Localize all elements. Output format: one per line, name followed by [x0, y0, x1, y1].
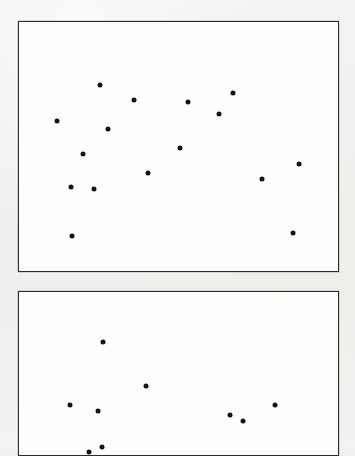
data-point: [70, 234, 75, 239]
data-point: [260, 177, 265, 182]
data-point: [106, 127, 111, 132]
data-point: [297, 162, 302, 167]
data-point: [186, 100, 191, 105]
data-point: [217, 112, 222, 117]
bottom-scatter-plot-area: [19, 292, 338, 455]
data-point: [96, 409, 101, 414]
data-point: [231, 91, 236, 96]
data-point: [291, 231, 296, 236]
data-point: [273, 403, 278, 408]
data-point: [55, 119, 60, 124]
data-point: [69, 185, 74, 190]
data-point: [87, 450, 92, 455]
top-scatter-panel: [18, 21, 339, 272]
data-point: [144, 384, 149, 389]
data-point: [228, 413, 233, 418]
data-point: [81, 152, 86, 157]
data-point: [100, 445, 105, 450]
data-point: [98, 83, 103, 88]
data-point: [68, 403, 73, 408]
data-point: [178, 146, 183, 151]
data-point: [146, 171, 151, 176]
bottom-scatter-panel: [18, 291, 339, 456]
data-point: [92, 187, 97, 192]
data-point: [101, 340, 106, 345]
top-scatter-plot-area: [19, 22, 338, 271]
data-point: [241, 419, 246, 424]
data-point: [132, 98, 137, 103]
